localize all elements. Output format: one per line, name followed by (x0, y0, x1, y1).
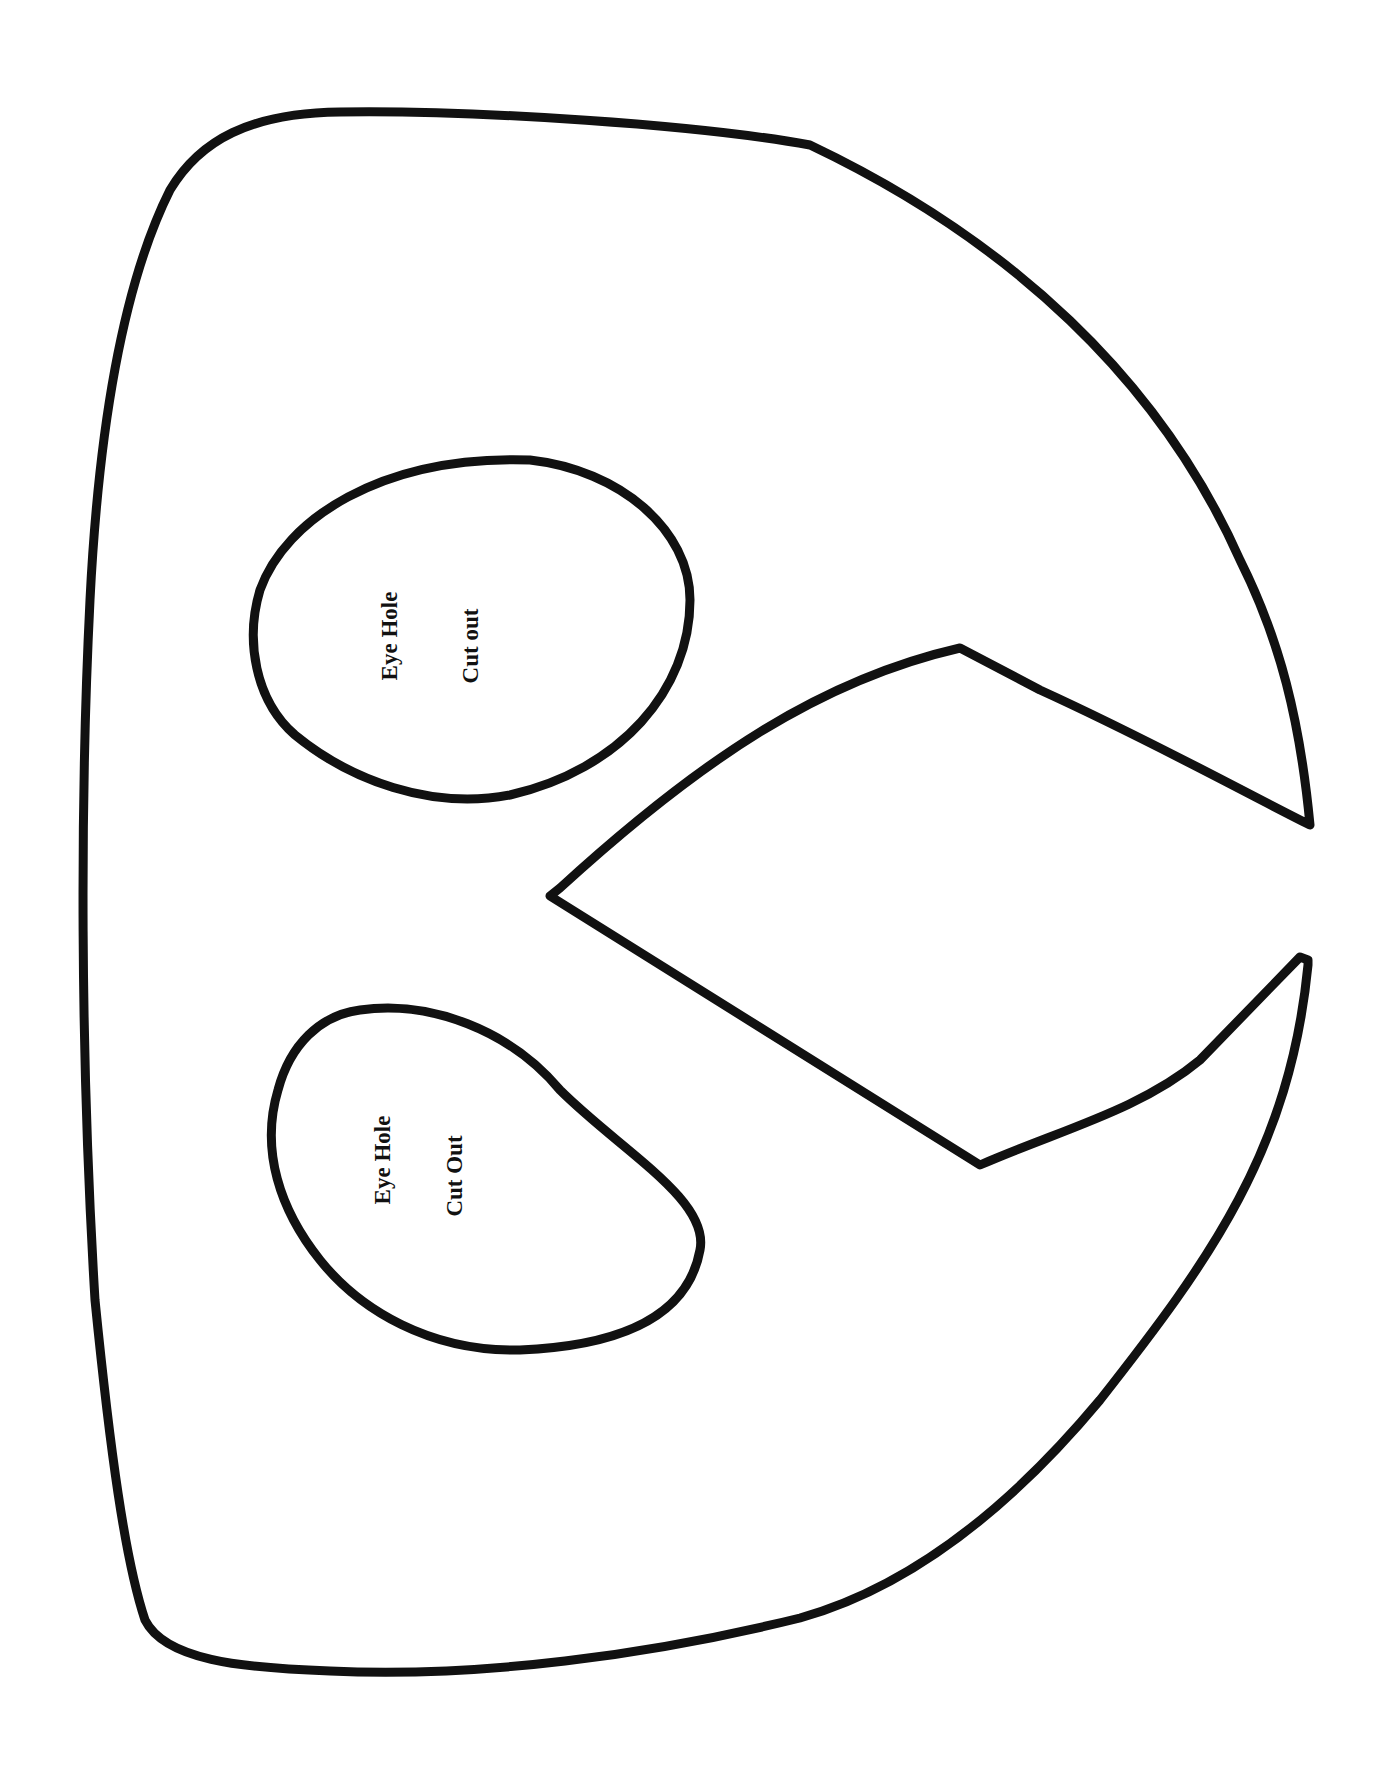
eye-hole-bottom-label-1: Eye Hole (370, 1116, 395, 1205)
eye-hole-top-label-2: Cut out (458, 608, 483, 683)
eye-hole-top-label-1: Eye Hole (377, 592, 402, 681)
mask-template: Eye Hole Cut out Eye Hole Cut Out (0, 0, 1393, 1781)
eye-hole-bottom (271, 1008, 700, 1350)
mask-outline (83, 112, 1310, 1672)
eye-hole-bottom-label-2: Cut Out (442, 1135, 467, 1216)
